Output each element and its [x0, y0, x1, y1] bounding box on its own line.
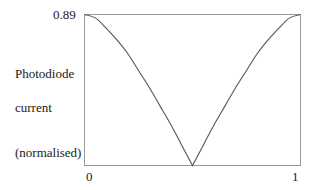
y-axis-label-line3: (normalised) — [15, 146, 81, 159]
y-tick-max: 0.89 — [53, 8, 76, 21]
y-axis-label-line1: Photodiode — [15, 67, 74, 80]
x-tick-min: 0 — [86, 170, 93, 183]
chart-plot — [0, 0, 316, 190]
x-tick-max: 1 — [292, 170, 299, 183]
y-axis-label-line2: current — [15, 101, 52, 114]
plot-frame — [85, 15, 301, 166]
data-curve — [85, 15, 301, 166]
